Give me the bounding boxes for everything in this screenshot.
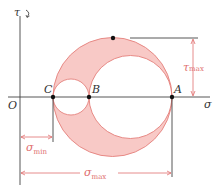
sigma-max-label: σmax: [84, 166, 106, 181]
sigma-axis-label: σ: [204, 98, 212, 111]
point-top: [111, 36, 115, 40]
point-b: [87, 95, 91, 99]
mohr-circle-diagram: τ σ O C B A τmax σmin σmax: [0, 0, 219, 194]
tau-axis-label: τ: [14, 6, 21, 19]
label-a: A: [173, 83, 182, 96]
origin-label: O: [8, 99, 17, 112]
sigma-min-label: σmin: [26, 141, 47, 156]
label-b: B: [91, 83, 100, 96]
label-c: C: [44, 83, 53, 96]
tau-max-label: τmax: [183, 61, 204, 74]
